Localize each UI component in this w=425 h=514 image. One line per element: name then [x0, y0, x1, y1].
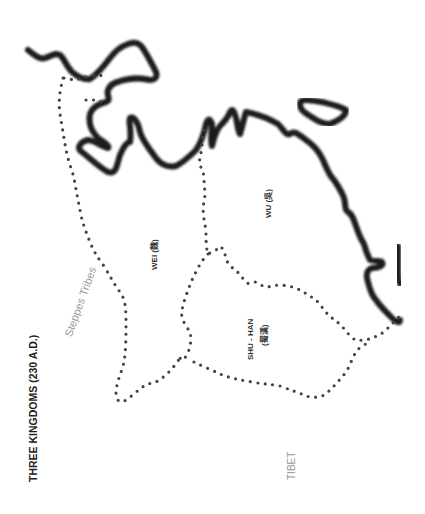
label-wei: WEI (魏): [148, 239, 159, 270]
border-wei-west: [59, 78, 180, 402]
label-tibet: TIBET: [286, 452, 297, 480]
map-canvas: [0, 0, 425, 514]
map-title: THREE KINGDOMS (230 A.D.): [27, 335, 39, 482]
label-wu: WU (吳): [262, 189, 273, 218]
border-shu-south: [194, 342, 370, 397]
label-shu-han: SHU - HAN: [246, 319, 255, 360]
coastline-spur: [398, 246, 400, 284]
border-shu-west: [180, 254, 208, 360]
label-shu-han-chinese: (蜀漢): [258, 325, 269, 346]
island: [300, 100, 346, 124]
border-coast-northwest: [86, 100, 102, 102]
